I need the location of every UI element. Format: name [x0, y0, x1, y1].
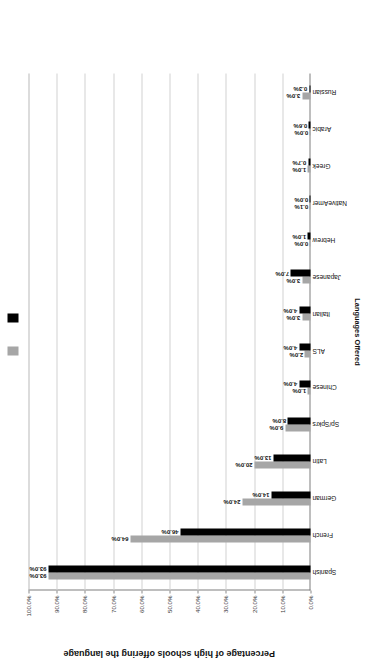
value-tick-label: 90.0%	[53, 595, 60, 613]
bar-value-label: 0.1%	[294, 203, 308, 209]
category-label-text: Chinese	[312, 383, 336, 390]
bar-value-label: 1.0%	[292, 387, 306, 393]
category-axis-title: Languages Offered	[352, 73, 361, 590]
value-tick-label: 10.0%	[278, 595, 285, 613]
bar: 0.3%	[309, 85, 310, 92]
bar-value-label: 7.0%	[275, 270, 289, 276]
category-label-text: Russian	[312, 88, 336, 95]
bar: 20.0%	[254, 461, 310, 468]
category-label-text: German	[312, 494, 336, 501]
bar-group: 3.0%7.0%	[28, 258, 310, 295]
category-label-text: Spanish	[312, 568, 336, 575]
bar-value-label: 3.0%	[286, 92, 300, 98]
category-label-text: French	[312, 531, 333, 538]
legend-key-series-1	[7, 346, 18, 355]
bar: 0.6%	[308, 121, 310, 128]
category-label-text: Hebrew	[312, 236, 335, 243]
chart-frame: Percentage of high schools offering the …	[0, 0, 369, 668]
value-tick-label: 40.0%	[194, 595, 201, 613]
value-tick-label: 100.0%	[25, 595, 32, 616]
bar-value-label: 0.6%	[293, 122, 307, 128]
bar: 0.1%	[309, 202, 310, 209]
bar-group: 0.0%1.0%	[28, 221, 310, 258]
bar-group: 0.1%0.0%	[28, 184, 310, 221]
legend-key-series-2	[7, 313, 18, 322]
bar-value-label: 20.0%	[235, 461, 252, 467]
bar-group: 9.0%8.0%	[28, 405, 310, 442]
bar-value-label: 93.0%	[29, 565, 46, 571]
bar: 64.0%	[130, 535, 310, 542]
bar-value-label: 64.0%	[111, 535, 128, 541]
bar: 1.0%	[307, 387, 310, 394]
bar-group: 1.0%0.7%	[28, 147, 310, 184]
bar-group: 3.0%0.3%	[28, 73, 310, 110]
bar: 1.0%	[307, 165, 310, 172]
bar-group: 2.0%4.0%	[28, 332, 310, 369]
bar: 93.0%	[48, 565, 310, 572]
category-label-text: Sp/Spkrs	[312, 420, 339, 427]
value-tick-label: 30.0%	[222, 595, 229, 613]
bar: 3.0%	[302, 276, 310, 283]
bar-value-label: 13.0%	[254, 454, 271, 460]
category-label-text: Japanese	[312, 273, 341, 280]
bar-value-label: 9.0%	[269, 424, 283, 430]
value-tick-label: 80.0%	[81, 595, 88, 613]
bar-value-label: 14.0%	[252, 491, 269, 497]
value-tick-label: 60.0%	[137, 595, 144, 613]
bar-value-label: 4.0%	[283, 380, 297, 386]
category-label-text: Latin	[312, 457, 326, 464]
value-tick-label: 50.0%	[166, 595, 173, 613]
bar-value-label: 0.0%	[294, 240, 308, 246]
bar: 2.0%	[304, 350, 310, 357]
bar-group: 24.0%14.0%	[28, 479, 310, 516]
bar: 7.0%	[290, 269, 310, 276]
bar-value-label: 4.0%	[283, 307, 297, 313]
bar: 93.0%	[48, 572, 310, 579]
category-label-text: Arabic	[312, 125, 331, 132]
value-axis-title-text: Percentage of high schools offering the …	[63, 648, 275, 658]
bar: 0.0%	[309, 128, 310, 135]
bar-group: 1.0%4.0%	[28, 368, 310, 405]
value-tick-label: 20.0%	[250, 595, 257, 613]
bar: 3.0%	[302, 92, 310, 99]
bar-value-label: 0.7%	[292, 159, 306, 165]
bar: 4.0%	[299, 306, 310, 313]
bar-value-label: 0.3%	[293, 85, 307, 91]
bar-groups: 93.0%93.0%64.0%46.0%24.0%14.0%20.0%13.0%…	[28, 73, 310, 590]
bar-value-label: 3.0%	[286, 314, 300, 320]
bar-value-label: 0.0%	[294, 129, 308, 135]
bar-value-label: 3.0%	[286, 277, 300, 283]
bar-group: 0.0%0.6%	[28, 110, 310, 147]
bar: 14.0%	[271, 491, 310, 498]
bar-value-label: 1.0%	[292, 233, 306, 239]
value-axis-title: Percentage of high schools offering the …	[28, 646, 310, 660]
bar: 0.7%	[308, 158, 310, 165]
bar-group: 64.0%46.0%	[28, 516, 310, 553]
chart-canvas: Percentage of high schools offering the …	[0, 0, 369, 668]
bar: 0.0%	[309, 239, 310, 246]
bar: 46.0%	[180, 528, 310, 535]
bar-value-label: 2.0%	[289, 351, 303, 357]
bar-group: 93.0%93.0%	[28, 553, 310, 590]
bar-value-label: 8.0%	[272, 417, 286, 423]
bar: 13.0%	[273, 454, 310, 461]
plot-area: 0.0%10.0%20.0%30.0%40.0%50.0%60.0%70.0%8…	[28, 73, 310, 590]
bar-value-label: 93.0%	[29, 572, 46, 578]
bar-group: 20.0%13.0%	[28, 442, 310, 479]
bar: 3.0%	[302, 313, 310, 320]
bar: 4.0%	[299, 343, 310, 350]
category-label-text: NativeAmer	[312, 199, 346, 206]
bar: 0.0%	[309, 195, 310, 202]
category-label-text: Greek	[312, 162, 330, 169]
bar: 9.0%	[285, 424, 310, 431]
category-label-text: Italian	[312, 310, 330, 317]
bar-value-label: 4.0%	[283, 344, 297, 350]
bar: 8.0%	[287, 417, 310, 424]
bar-group: 3.0%4.0%	[28, 295, 310, 332]
chart-legend	[4, 0, 20, 668]
bar: 4.0%	[299, 380, 310, 387]
bar-value-label: 46.0%	[161, 528, 178, 534]
bar: 24.0%	[242, 498, 310, 505]
bar-value-label: 1.0%	[292, 166, 306, 172]
value-tick-label: 0.0%	[307, 595, 314, 609]
